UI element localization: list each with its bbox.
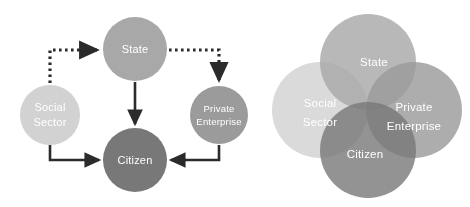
node-private-enterprise[interactable]: Private Enterprise — [190, 86, 248, 144]
node-social-sector[interactable]: Social Sector — [20, 85, 80, 145]
left-flow-diagram-panel: State Social Sector Private Enterprise C… — [0, 0, 262, 207]
venn-circle-group — [272, 14, 462, 198]
node-social-sector-label-line2: Sector — [34, 116, 67, 128]
venn-label-citizen: Citizen — [347, 148, 384, 160]
arrow-social-sector-to-state — [50, 50, 97, 83]
venn-label-private-enterprise-line1: Private — [395, 101, 432, 113]
node-private-enterprise-label-line2: Enterprise — [196, 116, 241, 127]
node-citizen-label: Citizen — [117, 154, 152, 166]
arrow-social-sector-to-citizen — [50, 145, 99, 160]
node-social-sector-label-line1: Social — [34, 101, 65, 113]
node-state[interactable]: State — [103, 17, 167, 81]
node-citizen[interactable]: Citizen — [103, 128, 167, 192]
venn-label-social-sector-line2: Sector — [303, 116, 337, 128]
venn-label-social-sector-line1: Social — [304, 97, 337, 109]
node-state-label: State — [122, 43, 149, 55]
node-private-enterprise-label-line1: Private — [204, 103, 235, 114]
venn-label-private-enterprise-line2: Enterprise — [387, 120, 441, 132]
arrow-state-to-private-enterprise — [169, 50, 219, 80]
figure-root: State Social Sector Private Enterprise C… — [0, 0, 470, 207]
arrow-private-enterprise-to-citizen — [171, 145, 219, 160]
right-venn-diagram-panel: State Social Sector Private Enterprise C… — [262, 0, 470, 207]
venn-label-state: State — [360, 56, 388, 68]
